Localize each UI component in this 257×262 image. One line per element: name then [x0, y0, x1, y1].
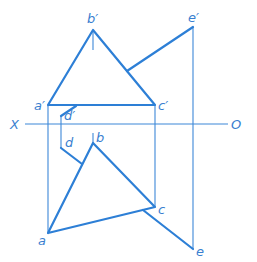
label-b-prime: b′ — [87, 11, 98, 26]
triangle-front-view — [48, 30, 155, 105]
label-c-prime: c′ — [158, 98, 168, 113]
label-a: a — [38, 233, 46, 248]
line-e — [143, 210, 193, 249]
label-a-prime: a′ — [34, 98, 45, 113]
projection-diagram: X O b′ e′ a′ c′ d′ d b c a e — [0, 0, 257, 262]
label-d-prime: d′ — [64, 108, 75, 123]
label-b: b — [96, 130, 104, 145]
triangle-top-view — [48, 143, 155, 233]
line-e-prime — [127, 27, 193, 71]
label-e-prime: e′ — [188, 10, 199, 25]
line-d — [61, 148, 82, 164]
axis-label-x: X — [9, 117, 20, 132]
axis-label-o: O — [231, 117, 241, 132]
label-d: d — [65, 135, 74, 150]
label-e: e — [196, 244, 204, 259]
label-c: c — [158, 202, 165, 217]
